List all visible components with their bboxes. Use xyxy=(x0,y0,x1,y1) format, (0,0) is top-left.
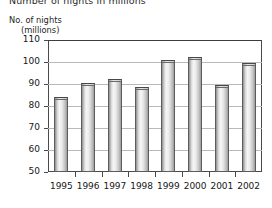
bar-chart-figure: Number of nights in millions No. of nigh… xyxy=(0,0,272,208)
y-tick-label: 90 xyxy=(10,78,40,88)
bar-1998 xyxy=(135,87,149,172)
bar-2000 xyxy=(188,57,202,173)
bar-1997 xyxy=(108,79,122,173)
bar-1996 xyxy=(81,83,95,172)
bar-column xyxy=(54,40,68,172)
bar-2001 xyxy=(215,85,229,172)
bar-top-cap xyxy=(55,98,67,100)
y-tick-label: 110 xyxy=(10,34,40,44)
y-tick-label: 50 xyxy=(10,166,40,176)
x-tick-mark xyxy=(182,172,183,177)
x-tick-mark xyxy=(128,172,129,177)
bar-column xyxy=(81,40,95,172)
x-tick-label-1997: 1997 xyxy=(100,181,130,191)
bar-top-cap xyxy=(162,61,174,63)
x-tick-mark xyxy=(235,172,236,177)
bar-column xyxy=(215,40,229,172)
chart-title: Number of nights in millions xyxy=(9,0,146,6)
y-tick-label: 60 xyxy=(10,144,40,154)
bar-column xyxy=(188,40,202,172)
bar-top-cap xyxy=(136,88,148,90)
bar-column xyxy=(161,40,175,172)
bar-top-cap xyxy=(216,86,228,88)
x-tick-label-2002: 2002 xyxy=(234,181,264,191)
bar-1995 xyxy=(54,97,68,172)
bar-top-cap xyxy=(109,80,121,82)
bar-top-cap xyxy=(82,84,94,86)
bar-top-cap xyxy=(243,64,255,66)
y-tick-label: 80 xyxy=(10,100,40,110)
x-tick-label-1998: 1998 xyxy=(127,181,157,191)
x-tick-label-1995: 1995 xyxy=(46,181,76,191)
y-tick-label: 100 xyxy=(10,56,40,66)
bar-series xyxy=(48,40,262,172)
bar-column xyxy=(242,40,256,172)
x-tick-label-1999: 1999 xyxy=(153,181,183,191)
x-tick-mark xyxy=(209,172,210,177)
bar-column xyxy=(135,40,149,172)
x-tick-mark xyxy=(155,172,156,177)
y-tick-label: 70 xyxy=(10,122,40,132)
bar-2002 xyxy=(242,63,256,172)
y-axis-caption: No. of nights (millions) xyxy=(9,15,62,35)
bar-column xyxy=(108,40,122,172)
bar-1999 xyxy=(161,60,175,172)
x-tick-mark xyxy=(75,172,76,177)
y-tick-mark xyxy=(44,172,48,173)
bar-top-cap xyxy=(189,58,201,60)
x-tick-mark xyxy=(102,172,103,177)
x-tick-label-1996: 1996 xyxy=(73,181,103,191)
x-tick-label-2001: 2001 xyxy=(207,181,237,191)
x-tick-label-2000: 2000 xyxy=(180,181,210,191)
y-axis-caption-line1: No. of nights xyxy=(9,15,62,25)
